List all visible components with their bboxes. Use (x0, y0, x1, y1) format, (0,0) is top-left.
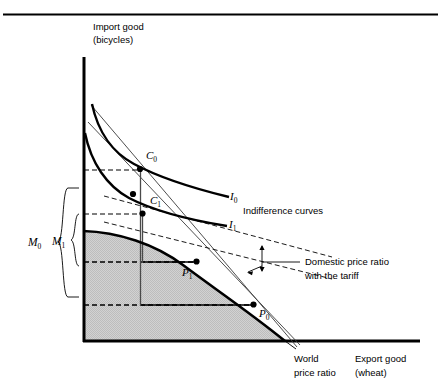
y-axis-label-line2: (bicycles) (93, 34, 133, 45)
point-label-c0: C0 (146, 149, 157, 164)
x-axis-label-line2: (wheat) (355, 367, 387, 378)
tariff-gap-arrow-head-up (259, 245, 264, 250)
point-label-c1: C1 (150, 194, 161, 209)
curve-label-i0: I0 (229, 190, 238, 205)
point-p1-marker (193, 258, 199, 264)
production-set-shading (83, 231, 285, 341)
curve-label-i1: I1 (228, 218, 237, 233)
ppf-tariff-figure: Import good (bicycles) World price ratio… (0, 0, 441, 390)
point-c1-marker (139, 210, 145, 216)
point-label-p1-sub: 1 (189, 272, 193, 281)
point-label-c1-sub: 1 (157, 200, 161, 209)
bracket-label-m0: M0 (27, 236, 42, 251)
tariff-gap-arrow-head-down (259, 267, 264, 272)
point-unlabeled-marker (130, 191, 136, 197)
point-p0-marker (250, 301, 256, 307)
point-label-p0-sub: 0 (266, 313, 270, 322)
bracket-label-m1: M1 (51, 235, 66, 250)
figure-page: Import good (bicycles) World price ratio… (0, 0, 441, 390)
indifference-curve-i1 (85, 133, 227, 226)
point-label-c0-sub: 0 (153, 155, 157, 164)
curve-label-i0-sub: 0 (234, 196, 238, 205)
indifference-curves-label: Indifference curves (243, 205, 323, 216)
bracket-label-m1-sub: 1 (62, 241, 66, 250)
domestic-price-label-line2: with the tariff (304, 270, 359, 281)
world-price-label-line1: World (294, 353, 319, 364)
domestic-price-label-line1: Domestic price ratio (305, 256, 389, 267)
world-price-label-line2: price ratio (294, 367, 336, 378)
curve-label-i1-sub: 1 (233, 224, 237, 233)
bracket-m1 (71, 214, 79, 266)
tariff-callout-leader-lower (248, 266, 262, 272)
point-label-p0: P0 (258, 307, 270, 322)
indifference-curve-i0 (92, 104, 229, 197)
bracket-label-m0-sub: 0 (38, 242, 42, 251)
tariff-callout-arrow-head-left (247, 271, 253, 275)
y-axis-label-line1: Import good (93, 21, 144, 32)
point-c0-marker (137, 166, 143, 172)
x-axis-label-line1: Export good (355, 353, 406, 364)
